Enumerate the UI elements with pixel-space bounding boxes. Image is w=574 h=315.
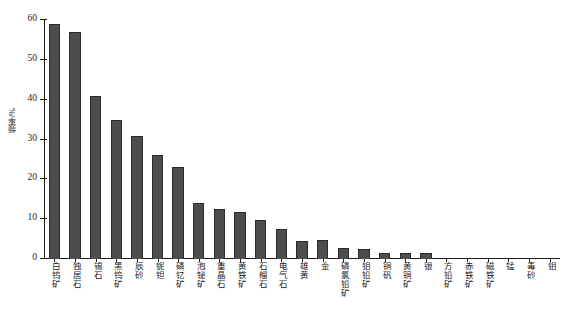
y-axis-tick-label: 60: [28, 13, 38, 24]
x-axis-label: 银: [421, 262, 431, 271]
y-axis-inner-tick: [44, 218, 47, 219]
plot-area: 0102030405060: [44, 20, 560, 259]
x-axis-label: 磁铁矿: [483, 262, 493, 289]
bar: [69, 32, 80, 259]
bar: [296, 241, 307, 259]
y-axis-tick: 0: [40, 258, 44, 259]
bar: [255, 220, 266, 259]
bar: [234, 212, 245, 259]
x-axis-label: 电气石: [276, 262, 286, 289]
x-axis-label: 钼: [545, 262, 555, 271]
y-axis-tick-label: 0: [32, 252, 37, 263]
x-axis-label: 黄铁矿: [235, 262, 245, 289]
y-axis-title: 频率/%: [8, 108, 22, 133]
bar: [420, 253, 431, 259]
y-axis-tick-label: 20: [28, 172, 38, 183]
x-axis-label: 磷钇矿: [173, 262, 183, 289]
y-axis-tick-label: 10: [28, 212, 38, 223]
x-axis-label: 方铅矿: [441, 262, 451, 289]
x-axis-label: 雄黄: [297, 262, 307, 280]
y-axis-inner-tick: [44, 19, 47, 20]
bar: [358, 249, 369, 259]
bar: [131, 136, 142, 259]
bar: [379, 253, 390, 259]
x-axis-label: 锰: [503, 262, 513, 271]
y-axis-inner-tick: [44, 99, 47, 100]
y-axis-tick-label: 30: [28, 133, 38, 144]
x-axis-label: 黑钨矿: [111, 262, 121, 289]
bar: [90, 96, 101, 259]
bar: [193, 203, 204, 259]
y-axis-inner-tick: [44, 139, 47, 140]
x-axis-label: 辰砂: [132, 262, 142, 280]
x-axis-label: 白钨矿: [49, 262, 59, 289]
x-axis-label: 磷氯铅矿: [338, 262, 348, 298]
bar: [317, 240, 328, 259]
bar: [338, 248, 349, 259]
bar: [276, 229, 287, 259]
x-axis-label: 泡铋矿: [194, 262, 204, 289]
x-axis-label: 独居石: [70, 262, 80, 289]
bar: [172, 167, 183, 259]
y-axis-inner-tick: [44, 59, 47, 60]
y-axis-line: [44, 20, 45, 259]
x-axis-label: 赤铁矿: [462, 262, 472, 289]
bar: [49, 24, 60, 259]
x-axis-label: 黄铜矿: [400, 262, 410, 289]
x-axis-label: 金: [318, 262, 328, 271]
x-axis-label: 铌钽: [153, 262, 163, 280]
bar: [400, 253, 411, 259]
bar: [214, 209, 225, 259]
x-axis-label: 锡石: [91, 262, 101, 280]
y-axis-tick-label: 40: [28, 93, 38, 104]
bar: [152, 155, 163, 259]
bar: [111, 120, 122, 259]
x-axis-label: 毒砂: [524, 262, 534, 280]
x-axis-label: 铜矾: [380, 262, 390, 280]
y-axis-inner-tick: [44, 178, 47, 179]
y-axis-tick-label: 50: [28, 53, 38, 64]
x-axis-label: 重晶石: [214, 262, 224, 289]
bar-chart: 频率/% 0102030405060 白钨矿独居石锡石黑钨矿辰砂铌钽磷钇矿泡铋矿…: [0, 0, 574, 315]
x-axis-labels: 白钨矿独居石锡石黑钨矿辰砂铌钽磷钇矿泡铋矿重晶石黄铁矿石榴石电气石雄黄金磷氯铅矿…: [44, 262, 560, 312]
x-axis-label: 钼铅矿: [359, 262, 369, 289]
x-axis-label: 石榴石: [256, 262, 266, 289]
